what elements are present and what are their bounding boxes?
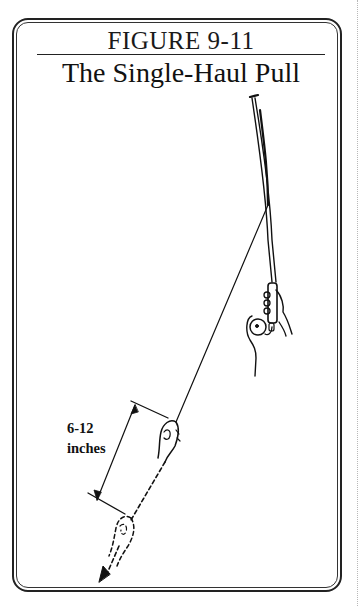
fly-rod-icon xyxy=(250,95,276,282)
distance-label: 6-12 inches xyxy=(67,418,106,458)
fly-line-icon xyxy=(176,205,268,422)
distance-value: 6-12 xyxy=(67,418,106,438)
single-haul-illustration xyxy=(0,0,362,606)
rod-hand-with-reel-icon xyxy=(247,283,292,376)
ghost-hand-dashed-icon xyxy=(106,462,165,576)
distance-unit: inches xyxy=(67,438,106,458)
line-hand-icon xyxy=(158,421,180,462)
pull-arrow-icon xyxy=(99,566,110,582)
